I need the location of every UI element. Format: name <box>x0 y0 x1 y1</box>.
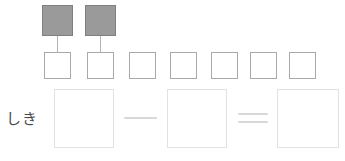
answer-box-result[interactable] <box>277 89 339 148</box>
connector-stem-icon <box>100 36 101 52</box>
worksheet-canvas: しき <box>0 0 345 161</box>
filled-counter-tile[interactable] <box>42 5 73 36</box>
empty-slot[interactable] <box>129 52 156 79</box>
answer-box-subtrahend[interactable] <box>167 89 227 148</box>
empty-slot[interactable] <box>211 52 238 79</box>
answer-box-minuend[interactable] <box>54 89 114 148</box>
connector-stem-icon <box>57 36 58 52</box>
empty-slot[interactable] <box>170 52 197 79</box>
filled-counter-tile[interactable] <box>85 5 116 36</box>
empty-slot[interactable] <box>289 52 316 79</box>
equation-label: しき <box>6 112 38 127</box>
empty-slot[interactable] <box>87 52 114 79</box>
empty-slot[interactable] <box>250 52 277 79</box>
empty-slot[interactable] <box>44 52 71 79</box>
